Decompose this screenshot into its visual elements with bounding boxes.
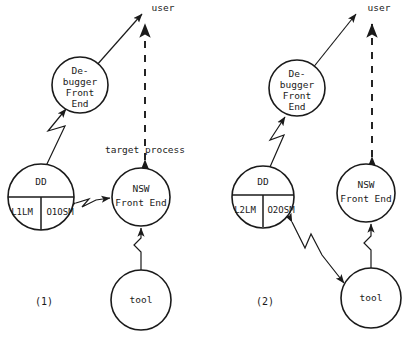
nsw-front-end-line-2: Front End: [340, 193, 391, 204]
panel-2-caption: (2): [256, 296, 274, 307]
debugger-front-end-line-4: End: [71, 98, 88, 109]
debugger-front-end-line-2: bugger: [63, 76, 98, 87]
dd-sub-left-label: L1LM: [11, 207, 33, 217]
panel-1-caption: (1): [35, 296, 53, 307]
user-label: user: [368, 2, 391, 13]
nsw-front-end-line-2: Front End: [115, 197, 166, 208]
link-dd-to-nsw-zigzag: [76, 198, 110, 207]
figure-canvas: De- bugger Front End DD L1LM O1OSM NSW F…: [0, 0, 408, 341]
panel-2: De- bugger Front End DD L2LM O2OSM NSW F…: [232, 2, 401, 329]
tool-label: tool: [130, 294, 153, 305]
tool-label: tool: [360, 292, 383, 303]
user-label: user: [152, 2, 175, 13]
link-tool-to-nsw-zigzag: [134, 228, 141, 271]
debugger-front-end-line-2: bugger: [280, 79, 315, 90]
architecture-diagram: De- bugger Front End DD L1LM O1OSM NSW F…: [0, 0, 408, 341]
debugger-front-end-line-3: Front: [66, 87, 95, 98]
dd-label: DD: [35, 176, 47, 187]
nsw-front-end-line-1: NSW: [357, 179, 374, 190]
dd-sub-right-label: O1OSM: [46, 207, 74, 217]
target-process-label: target process: [105, 144, 185, 155]
debugger-front-end-line-1: De-: [288, 68, 305, 79]
link-debugger-to-user: [312, 14, 356, 69]
link-dd-to-debugger-zigzag: [270, 117, 285, 167]
debugger-front-end-line-1: De-: [71, 65, 88, 76]
debugger-front-end-line-3: Front: [283, 90, 312, 101]
dd-sub-left-label: L2LM: [234, 205, 256, 215]
panel-1: De- bugger Front End DD L1LM O1OSM NSW F…: [8, 2, 185, 331]
nsw-front-end-line-1: NSW: [132, 183, 149, 194]
link-debugger-to-user: [96, 14, 142, 66]
dd-sub-right-label: O2OSM: [267, 205, 295, 215]
dd-label: DD: [257, 176, 269, 187]
debugger-front-end-line-4: End: [288, 101, 305, 112]
link-dd-to-tool-zigzag: [292, 222, 344, 283]
link-dd-to-debugger-zigzag: [46, 109, 66, 166]
link-tool-to-nsw-zigzag: [364, 224, 371, 268]
